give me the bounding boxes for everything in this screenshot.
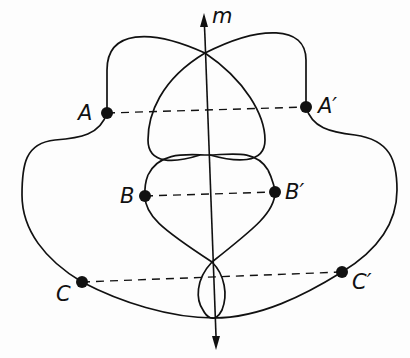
label-b: B xyxy=(120,186,134,207)
point-b-prime xyxy=(269,186,281,198)
point-c xyxy=(76,276,88,288)
label-c: C xyxy=(56,284,71,305)
label-c-prime: C′ xyxy=(352,272,371,293)
label-a: A xyxy=(78,103,92,124)
point-c-prime xyxy=(336,266,348,278)
point-a xyxy=(101,107,113,119)
line-of-reflection-m xyxy=(200,13,220,350)
point-a-prime xyxy=(300,101,312,113)
label-a-prime: A′ xyxy=(318,96,337,117)
label-b-prime: B′ xyxy=(285,182,304,203)
axis-label-m: m xyxy=(212,6,232,27)
reflection-diagram: m A A′ B B′ C C′ xyxy=(0,0,410,358)
point-b xyxy=(139,190,151,202)
marked-points xyxy=(76,101,348,288)
